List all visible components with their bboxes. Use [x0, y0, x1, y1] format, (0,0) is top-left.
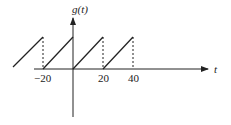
- tick-label-40: 40: [128, 72, 140, 84]
- ramp-segment: [13, 37, 43, 67]
- x-axis-label: t: [214, 63, 218, 75]
- tick-label-20: 20: [98, 72, 110, 84]
- ramp-segment: [73, 37, 103, 69]
- y-axis-label: g(t): [72, 3, 88, 16]
- sawtooth-diagram: g(t) t −20 20 40: [0, 0, 231, 125]
- ramp-segment: [43, 37, 73, 69]
- ramp-segment: [103, 37, 133, 69]
- tick-label-neg20: −20: [34, 72, 52, 84]
